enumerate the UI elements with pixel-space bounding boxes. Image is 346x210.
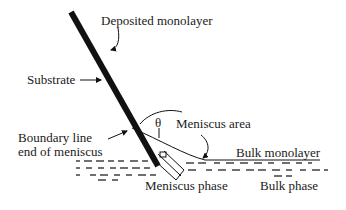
label-meniscus-phase: Meniscus phase [145, 178, 228, 193]
label-bulk-phase: Bulk phase [260, 178, 318, 193]
langmuir-blodgett-meniscus-diagram: Deposited monolayer Substrate Boundary l… [0, 0, 346, 210]
label-bulk-monolayer: Bulk monolayer [236, 145, 321, 160]
label-substrate: Substrate [27, 72, 76, 87]
diagram-canvas: Deposited monolayer Substrate Boundary l… [0, 0, 346, 210]
label-meniscus-area: Meniscus area [176, 116, 251, 131]
label-boundary-line: Boundary line [18, 130, 92, 145]
meniscus-area-leader [201, 135, 208, 158]
label-theta: θ [155, 115, 161, 130]
label-end-of-meniscus: end of meniscus [18, 144, 102, 159]
boundary-line-leader [108, 131, 127, 139]
label-deposited-monolayer: Deposited monolayer [101, 13, 213, 28]
deposited-monolayer-leader [111, 28, 119, 50]
